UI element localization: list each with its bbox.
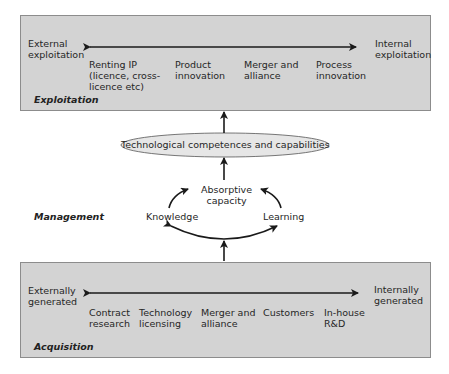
knowledge-label: Knowledge <box>146 211 198 222</box>
arrow-learning-to-absorptive <box>261 189 281 208</box>
arrow-knowledge-learning-loop <box>171 226 277 239</box>
arrow-knowledge-to-absorptive <box>169 189 188 208</box>
management-section-label: Management <box>34 211 104 222</box>
technological-competences-label: Technological competences and capabiliti… <box>121 139 329 150</box>
absorptive-capacity-label: Absorptive capacity <box>201 184 252 206</box>
learning-label: Learning <box>263 211 304 222</box>
